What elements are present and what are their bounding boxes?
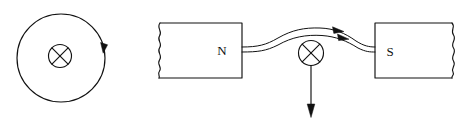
north-pole-label: N (217, 43, 227, 58)
right-cross-in-circle-icon (299, 41, 324, 66)
north-pole-torn-edge (159, 23, 161, 78)
left-panel-group (17, 14, 108, 102)
force-arrowhead (307, 104, 315, 118)
left-cross-in-circle-icon (49, 45, 72, 68)
north-pole-block (159, 23, 242, 78)
field-line-upper-arrowhead (333, 27, 345, 34)
figure-canvas: N S (0, 0, 469, 124)
field-direction-arrowhead (101, 43, 108, 54)
right-panel-group: N S (159, 23, 455, 118)
force-arrow (307, 66, 315, 118)
physics-figure: N S (0, 0, 469, 124)
field-line-upper (242, 28, 375, 47)
south-pole-label: S (386, 44, 393, 59)
south-pole-torn-edge (452, 23, 455, 78)
circular-field-line (17, 14, 105, 102)
field-line-lower (242, 35, 375, 52)
